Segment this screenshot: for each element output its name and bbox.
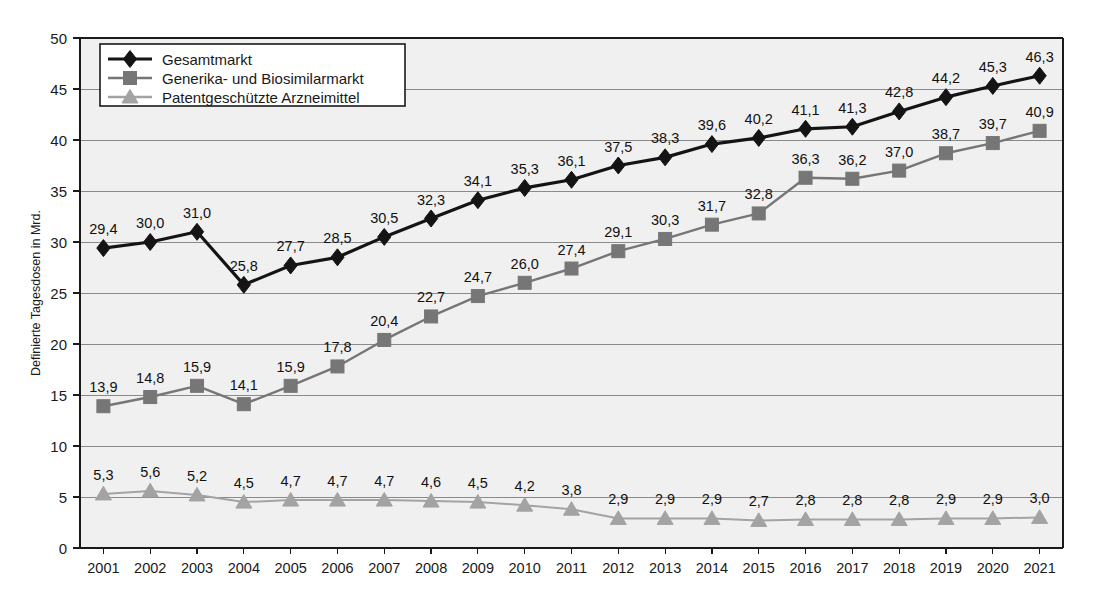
x-tick-label: 2017 [836, 560, 868, 576]
data-value-label: 2,7 [749, 493, 769, 509]
chart-container: 05101520253035404550 2001200220032004200… [0, 0, 1098, 605]
data-value-label: 2,8 [795, 492, 815, 508]
data-point-marker [124, 72, 137, 85]
y-tick-label: 10 [50, 438, 67, 455]
x-tick-label: 2003 [181, 560, 213, 576]
data-value-label: 4,6 [421, 474, 441, 490]
data-value-label: 45,3 [979, 59, 1007, 75]
data-value-label: 30,3 [651, 212, 679, 228]
data-point-marker [1033, 124, 1046, 137]
data-point-marker [237, 398, 250, 411]
x-tick-label: 2005 [275, 560, 307, 576]
data-value-label: 38,3 [651, 130, 679, 146]
x-tick-label: 2007 [368, 560, 400, 576]
data-value-label: 29,1 [604, 224, 632, 240]
data-value-label: 17,8 [323, 339, 351, 355]
data-value-label: 24,7 [464, 269, 492, 285]
data-value-label: 2,9 [608, 491, 628, 507]
y-tick-label: 35 [50, 183, 67, 200]
x-tick-label: 2013 [649, 560, 681, 576]
data-value-label: 38,7 [932, 126, 960, 142]
y-tick-label: 15 [50, 387, 67, 404]
data-value-label: 31,7 [698, 198, 726, 214]
legend-item-1: Gesamtmarkt [108, 51, 253, 68]
data-point-marker [518, 276, 531, 289]
data-point-marker [659, 232, 672, 245]
x-tick-label: 2001 [87, 560, 119, 576]
y-tick-label: 40 [50, 132, 67, 149]
y-tick-label: 5 [59, 489, 67, 506]
data-value-label: 13,9 [89, 379, 117, 395]
data-value-label: 2,8 [889, 492, 909, 508]
x-tick-label: 2002 [134, 560, 166, 576]
data-point-marker [565, 262, 578, 275]
data-point-marker [97, 400, 110, 413]
x-tick-label: 2015 [743, 560, 775, 576]
data-point-marker [471, 290, 484, 303]
data-point-marker [799, 171, 812, 184]
data-value-label: 2,9 [702, 491, 722, 507]
data-point-marker [284, 379, 297, 392]
data-value-label: 40,9 [1025, 104, 1053, 120]
data-point-marker [144, 391, 157, 404]
data-value-label: 3,8 [561, 482, 581, 498]
data-value-label: 32,8 [745, 186, 773, 202]
data-value-label: 15,9 [183, 359, 211, 375]
data-point-marker [425, 310, 438, 323]
data-point-marker [846, 172, 859, 185]
data-value-label: 4,5 [234, 475, 254, 491]
data-value-label: 42,8 [885, 84, 913, 100]
data-value-label: 27,7 [277, 238, 305, 254]
x-tick-label: 2008 [415, 560, 447, 576]
data-value-label: 4,2 [515, 478, 535, 494]
x-tick-label: 2021 [1023, 560, 1055, 576]
data-value-label: 27,4 [557, 242, 585, 258]
data-point-marker [378, 333, 391, 346]
legend-label: Gesamtmarkt [162, 51, 253, 68]
legend-label: Patentgeschützte Arzneimittel [162, 89, 360, 106]
data-point-marker [752, 207, 765, 220]
data-value-label: 25,8 [230, 258, 258, 274]
x-tick-label: 2018 [883, 560, 915, 576]
data-value-label: 37,5 [604, 139, 632, 155]
data-value-label: 2,9 [983, 491, 1003, 507]
y-tick-label: 20 [50, 336, 67, 353]
data-point-marker [331, 360, 344, 373]
data-value-label: 26,0 [511, 256, 539, 272]
data-point-marker [705, 218, 718, 231]
x-tick-label: 2004 [228, 560, 260, 576]
data-value-label: 2,9 [936, 491, 956, 507]
y-axis-title: Definierte Tagesdosen in Mrd. [29, 210, 43, 376]
data-value-label: 28,5 [323, 230, 351, 246]
data-point-marker [939, 147, 952, 160]
data-value-label: 15,9 [277, 359, 305, 375]
y-tick-label: 50 [50, 30, 67, 47]
x-tick-label: 2010 [509, 560, 541, 576]
x-tick-label: 2006 [321, 560, 353, 576]
data-value-label: 40,2 [745, 111, 773, 127]
x-tick-label: 2020 [977, 560, 1009, 576]
data-point-marker [986, 137, 999, 150]
data-value-label: 20,4 [370, 313, 398, 329]
data-value-label: 44,2 [932, 70, 960, 86]
y-axis-label: Definierte Tagesdosen in Mrd. [29, 210, 43, 376]
data-value-label: 4,7 [327, 473, 347, 489]
line-chart: 05101520253035404550 2001200220032004200… [0, 0, 1098, 605]
data-value-label: 22,7 [417, 289, 445, 305]
data-value-label: 36,3 [791, 151, 819, 167]
data-value-label: 29,4 [89, 221, 117, 237]
data-value-label: 41,3 [838, 100, 866, 116]
data-value-label: 41,1 [791, 102, 819, 118]
data-value-label: 5,2 [187, 468, 207, 484]
data-value-label: 31,0 [183, 205, 211, 221]
x-tick-label: 2011 [556, 560, 587, 576]
data-value-label: 14,1 [230, 377, 258, 393]
x-tick-label: 2016 [789, 560, 821, 576]
legend: GesamtmarktGenerika- und Biosimilarmarkt… [100, 44, 405, 106]
data-value-label: 39,7 [979, 116, 1007, 132]
data-point-marker [191, 379, 204, 392]
data-value-label: 14,8 [136, 370, 164, 386]
y-tick-label: 30 [50, 234, 67, 251]
data-value-label: 36,2 [838, 152, 866, 168]
x-tick-label: 2012 [602, 560, 634, 576]
